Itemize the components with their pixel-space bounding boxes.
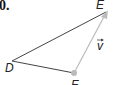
label-D: D [5,61,14,75]
label-E: E [96,0,104,12]
edge-DE [12,12,106,61]
label-F: F [71,78,78,85]
label-v: v [97,39,103,53]
edge-DF [12,61,74,73]
point-F [71,70,77,76]
